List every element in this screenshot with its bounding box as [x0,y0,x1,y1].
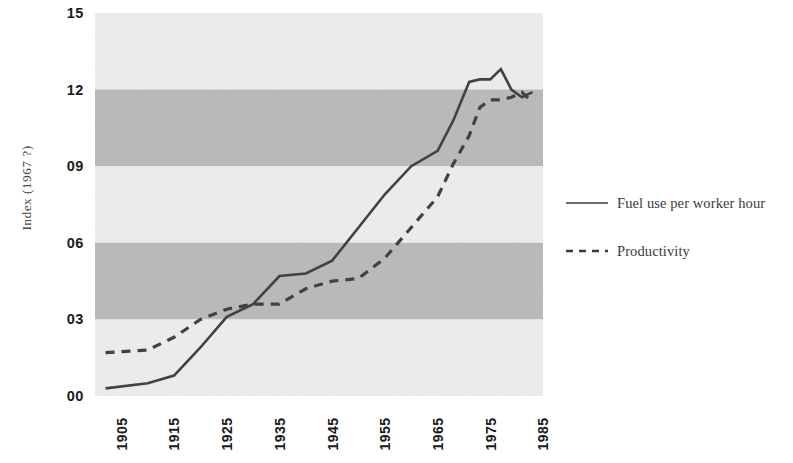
x-tick-label: 1955 [355,404,415,442]
legend-item: Productivity [566,236,788,266]
solid-line-icon [566,198,608,208]
y-tick-label: 09 [38,159,84,174]
x-tick-label: 1935 [249,404,309,442]
x-axis-tick-labels: 190519151925193519451955196519751985 [0,404,793,463]
y-axis-title: Index (1967 ?) [19,98,35,278]
x-tick-label: 1905 [91,404,151,442]
y-axis-tick-labels: 151209060300 [38,0,84,463]
y-tick-label: 15 [38,6,84,21]
y-tick-label: 06 [38,236,84,251]
legend-item: Fuel use per worker hour [566,188,788,218]
dashed-line-icon [566,246,608,256]
plot-area [95,13,543,396]
chart-figure: Index (1967 ?) 151209060300 190519151925… [0,0,793,463]
x-tick-label: 1945 [302,404,362,442]
x-tick-label: 1915 [144,404,204,442]
y-tick-label: 00 [38,389,84,404]
x-tick-label: 1925 [197,404,257,442]
legend-label: Fuel use per worker hour [617,195,765,212]
y-tick-label: 12 [38,82,84,97]
x-tick-label: 1985 [513,404,573,442]
x-tick-label: 1965 [408,404,468,442]
x-tick-label: 1975 [460,404,520,442]
legend-label: Productivity [617,243,690,260]
chart-legend: Fuel use per worker hourProductivity [566,188,788,284]
plot-svg [95,13,543,396]
paper-grain-overlay [95,13,543,396]
y-tick-label: 03 [38,312,84,327]
